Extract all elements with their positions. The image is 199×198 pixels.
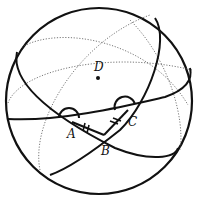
tick-mark-AB-1	[83, 123, 85, 131]
label-D: D	[93, 60, 104, 74]
hidden-arc-3	[39, 15, 150, 170]
point-D-dot	[96, 76, 100, 80]
label-C: C	[128, 115, 137, 129]
sphere-outline	[6, 8, 192, 194]
hidden-arc-2	[22, 38, 188, 105]
label-B: B	[100, 144, 110, 158]
great-circle-2	[8, 68, 191, 119]
tick-mark-AB-2	[87, 125, 89, 133]
sphere-diagram: D A B C	[0, 0, 199, 198]
label-A: A	[66, 127, 76, 141]
